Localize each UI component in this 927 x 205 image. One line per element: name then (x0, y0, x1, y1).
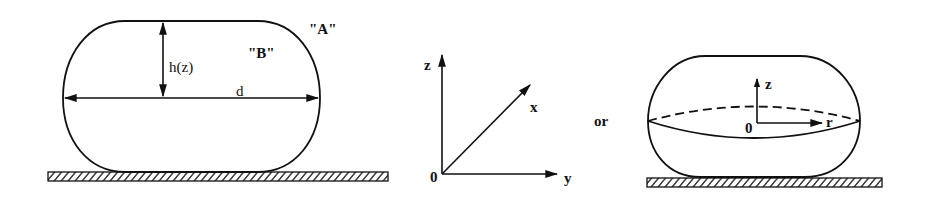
outside-label-a: "A" (309, 21, 337, 37)
left-drop-figure: h(z) d "B" "A" (48, 21, 388, 181)
x-axis-label: x (530, 99, 538, 115)
axes-origin-label: 0 (430, 169, 438, 185)
height-label: h(z) (169, 59, 193, 76)
coordinate-axes: z x y 0 (424, 55, 572, 186)
right-r-label: r (826, 114, 833, 130)
drop-diagram: h(z) d "B" "A" z x y 0 or z r 0 (0, 0, 927, 205)
inside-label-b: "B" (248, 45, 275, 61)
right-z-label: z (765, 76, 772, 92)
x-axis (442, 85, 530, 174)
left-drop-outline (63, 21, 320, 172)
z-axis-label: z (424, 57, 431, 73)
right-origin-label: 0 (745, 120, 753, 136)
y-axis-label: y (564, 170, 572, 186)
right-drop-figure: z r 0 (647, 56, 882, 187)
left-ground-hatch (48, 172, 388, 181)
or-connector: or (594, 113, 609, 129)
diameter-label: d (236, 83, 244, 99)
right-ground-hatch (647, 178, 882, 187)
